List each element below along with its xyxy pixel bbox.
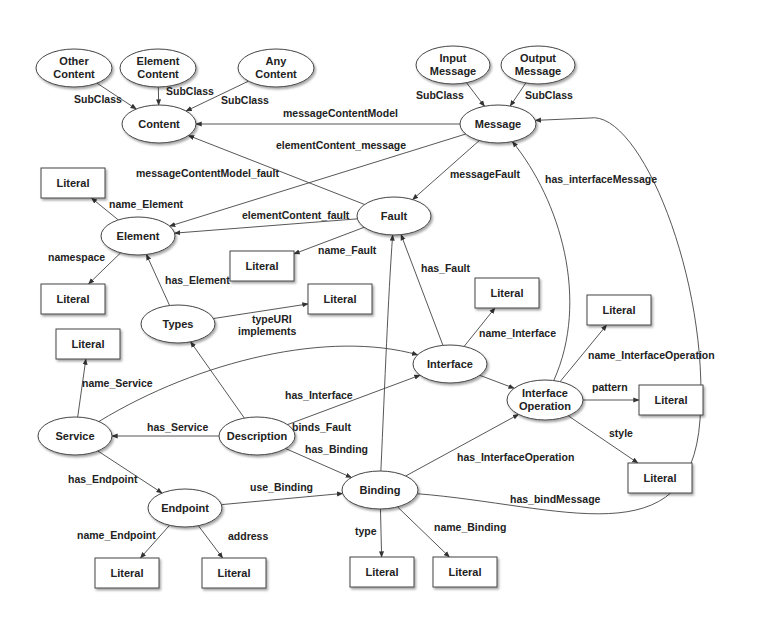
literal-box-lit-namespace: Literal xyxy=(41,284,105,314)
node-label: Input xyxy=(440,52,467,64)
edge-interface-operation-to-lit-style xyxy=(568,416,638,463)
node-label: Literal xyxy=(490,287,523,299)
edge-label: SubClass xyxy=(166,85,214,97)
class-node-endpoint: Endpoint xyxy=(148,489,222,527)
node-label: Description xyxy=(227,430,288,442)
edge-label: has_Fault xyxy=(421,262,471,274)
class-node-description: Description xyxy=(219,417,295,455)
edge-label: messageContentModel xyxy=(283,107,398,119)
class-node-service: Service xyxy=(38,417,112,455)
edge-label: name_Interface xyxy=(479,327,556,339)
edge-label: has_bindMessage xyxy=(510,493,601,505)
edge-label: binds_Fault xyxy=(292,421,351,433)
class-node-input-message: InputMessage xyxy=(416,46,490,84)
node-label: Literal xyxy=(71,338,104,350)
edge-label: messageFault xyxy=(450,168,521,180)
class-node-interface: Interface xyxy=(413,345,487,383)
node-label: Message xyxy=(515,65,561,77)
node-label: Content xyxy=(138,118,180,130)
node-label: Literal xyxy=(245,260,278,272)
edge-label: SubClass xyxy=(416,89,464,101)
literal-box-lit-style: Literal xyxy=(628,463,692,493)
literal-box-lit-name-binding: Literal xyxy=(433,557,497,587)
class-node-binding: Binding xyxy=(342,471,418,509)
edge-label: use_Binding xyxy=(250,481,313,493)
literal-box-lit-type: Literal xyxy=(350,557,414,587)
node-label: Literal xyxy=(602,304,635,316)
node-label: Literal xyxy=(110,567,143,579)
edge-description-to-types xyxy=(191,342,245,418)
edge-label: messageContentModel_fault xyxy=(136,167,279,179)
literal-box-lit-pattern: Literal xyxy=(639,385,703,415)
node-label: Literal xyxy=(56,293,89,305)
node-label: Literal xyxy=(217,567,250,579)
edge-label: name_Binding xyxy=(434,521,506,533)
node-label: Types xyxy=(163,318,194,330)
edge-interface-to-interface-operation xyxy=(480,375,514,388)
node-label: Interface xyxy=(427,358,473,370)
node-label: Element xyxy=(137,55,180,67)
edge-label: elementContent_fault xyxy=(242,209,350,221)
class-node-types: Types xyxy=(141,305,215,343)
edge-endpoint-to-lit-address xyxy=(198,526,222,558)
literal-box-lit-name-interface-operation: Literal xyxy=(587,295,651,325)
class-node-fault: Fault xyxy=(357,197,431,235)
node-label: Output xyxy=(520,52,556,64)
edge-label: SubClass xyxy=(74,93,122,105)
edge-label: SubClass xyxy=(525,89,573,101)
edge-input-message-to-message xyxy=(466,83,484,107)
edge-label: type xyxy=(355,525,377,537)
literal-box-lit-name-endpoint: Literal xyxy=(95,558,159,588)
node-label: Element xyxy=(117,230,160,242)
class-node-content: Content xyxy=(122,105,196,143)
node-label: Message xyxy=(475,118,521,130)
edge-label: typeURI xyxy=(252,313,292,325)
literal-box-lit-name-fault: Literal xyxy=(230,251,294,281)
edge-label: address xyxy=(228,530,268,542)
wsdl-ontology-diagram: SubClassSubClassSubClassSubClassSubClass… xyxy=(0,0,758,627)
literal-box-lit-name-service: Literal xyxy=(56,329,120,359)
node-label: Literal xyxy=(323,293,356,305)
class-node-output-message: OutputMessage xyxy=(501,46,575,84)
node-label: Other xyxy=(59,55,89,67)
edge-label: has_InterfaceOperation xyxy=(457,451,574,463)
literal-box-lit-name-element: Literal xyxy=(41,168,105,198)
literal-box-lit-name-interface: Literal xyxy=(475,278,539,308)
edge-binding-to-lit-type xyxy=(380,509,381,557)
class-node-element-content: ElementContent xyxy=(120,49,196,87)
edge-label: pattern xyxy=(592,381,628,393)
node-label: Any xyxy=(266,55,288,67)
node-label: Content xyxy=(137,68,179,80)
node-label: Literal xyxy=(56,177,89,189)
nodes-layer: OtherContentElementContentAnyContentCont… xyxy=(36,46,703,588)
edge-endpoint-to-binding xyxy=(221,493,342,504)
edge-label: has_Interface xyxy=(285,389,353,401)
node-label: Interface xyxy=(522,387,568,399)
node-label: Binding xyxy=(360,484,401,496)
edge-label: implements xyxy=(238,325,297,337)
edge-label: SubClass xyxy=(221,94,269,106)
edge-label: has_Service xyxy=(147,421,208,433)
class-node-interface-operation: InterfaceOperation xyxy=(507,380,583,420)
edge-binding-to-interface-operation xyxy=(406,414,519,476)
edge-label: elementContent_message xyxy=(276,139,406,151)
node-label: Literal xyxy=(643,472,676,484)
node-label: Message xyxy=(430,65,476,77)
node-label: Content xyxy=(53,68,95,80)
node-label: Service xyxy=(55,430,94,442)
edge-output-message-to-message xyxy=(510,83,526,106)
edge-label: name_Fault xyxy=(318,244,377,256)
edge-label: has_Endpoint xyxy=(68,473,138,485)
class-node-any-content: AnyContent xyxy=(238,49,314,87)
edge-label: name_Element xyxy=(109,198,184,210)
node-label: Fault xyxy=(381,210,408,222)
edge-label: name_InterfaceOperation xyxy=(588,349,715,361)
node-label: Content xyxy=(255,68,297,80)
edge-binding-to-fault xyxy=(381,235,393,471)
class-node-element: Element xyxy=(101,217,175,255)
class-node-message: Message xyxy=(460,105,536,143)
edge-label: has_interfaceMessage xyxy=(545,173,657,185)
edge-label: has_Binding xyxy=(305,443,368,455)
node-label: Literal xyxy=(365,566,398,578)
literal-box-lit-type-uri: Literal xyxy=(308,284,372,314)
